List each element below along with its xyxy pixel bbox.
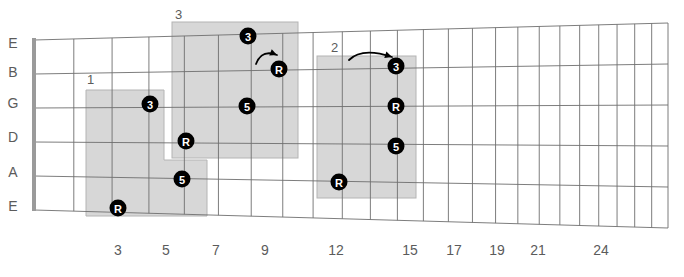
note-marker-label: 3 (147, 99, 153, 111)
note-marker-label: 5 (244, 101, 250, 113)
note-marker-5-9: 5 (388, 138, 405, 155)
string-line-0 (34, 23, 668, 40)
fret-number-15: 15 (402, 242, 418, 258)
note-marker-label: R (392, 101, 400, 113)
note-marker-r-6: R (110, 200, 127, 217)
string-label-5: E (8, 198, 17, 214)
note-marker-5-2: 5 (239, 98, 256, 115)
string-labels: EBGDAE (8, 35, 19, 214)
note-marker-3-4: 3 (142, 96, 159, 113)
fretboard-diagram: EBGDAE 3579121517192124 132 3R5R35R3R5R (0, 0, 684, 277)
box-label-3: 3 (175, 7, 182, 22)
string-label-2: G (8, 95, 19, 111)
note-marker-label: 5 (179, 174, 185, 186)
box-label-1: 1 (87, 72, 94, 87)
note-marker-label: R (182, 136, 190, 148)
fret-number-12: 12 (328, 242, 344, 258)
note-marker-3-7: 3 (388, 58, 405, 75)
fret-number-24: 24 (593, 242, 609, 258)
string-label-1: B (8, 64, 17, 80)
note-marker-r-3: R (178, 133, 195, 150)
note-marker-r-10: R (331, 174, 348, 191)
note-marker-label: 3 (393, 61, 399, 73)
position-box-2 (317, 56, 416, 198)
note-marker-label: R (335, 177, 343, 189)
note-marker-r-8: R (388, 98, 405, 115)
note-marker-label: 3 (245, 31, 251, 43)
fretboard-svg: EBGDAE 3579121517192124 132 3R5R35R3R5R (0, 0, 684, 277)
note-marker-label: 5 (393, 141, 399, 153)
fret-number-7: 7 (212, 242, 220, 258)
string-line-5 (34, 210, 668, 228)
fret-number-labels: 3579121517192124 (114, 242, 609, 258)
string-label-0: E (8, 35, 17, 51)
fret-number-3: 3 (114, 242, 122, 258)
note-marker-3-0: 3 (240, 28, 257, 45)
note-marker-label: R (114, 203, 122, 215)
string-label-4: A (8, 164, 18, 180)
box-label-2: 2 (331, 40, 338, 55)
note-marker-label: R (275, 64, 283, 76)
fret-number-19: 19 (489, 242, 505, 258)
fret-number-21: 21 (530, 242, 546, 258)
fret-number-5: 5 (162, 242, 170, 258)
note-marker-5-5: 5 (174, 171, 191, 188)
string-label-3: D (8, 129, 18, 145)
shift-arrow-box2-head (384, 52, 392, 58)
fret-number-17: 17 (446, 242, 462, 258)
note-marker-r-1: R (271, 61, 288, 78)
fret-number-9: 9 (261, 242, 269, 258)
